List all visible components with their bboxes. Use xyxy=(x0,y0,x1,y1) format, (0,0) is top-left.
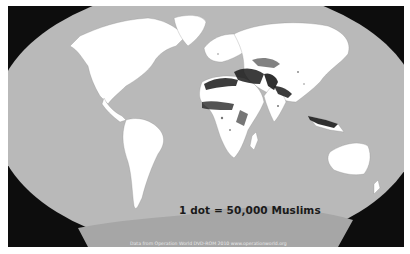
data-source-caption: Data from Operation World DVD-ROM 2010 w… xyxy=(130,241,287,246)
map-frame: 1 dot = 50,000 Muslims Data from Operati… xyxy=(8,6,404,247)
map-legend: 1 dot = 50,000 Muslims xyxy=(179,204,321,216)
